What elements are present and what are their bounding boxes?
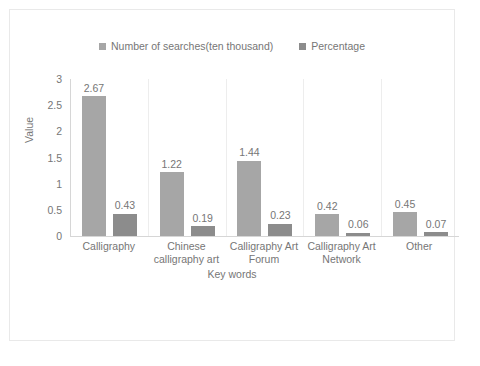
bar[interactable] <box>315 214 339 236</box>
bar-value-label: 0.42 <box>317 201 337 212</box>
bar-value-label: 0.07 <box>426 219 446 230</box>
bar-slot: 1.22 <box>160 79 184 236</box>
bar-value-label: 0.23 <box>270 210 290 221</box>
y-axis-tick: 1 <box>56 178 62 190</box>
bar-value-label: 0.45 <box>395 199 415 210</box>
bar-value-label: 0.06 <box>348 219 368 230</box>
legend-swatch-series-1-icon <box>99 43 106 50</box>
bar-group: 2.670.43 <box>71 79 149 236</box>
legend-entry-percentage[interactable]: Percentage <box>299 41 365 52</box>
bar-value-label: 0.19 <box>192 213 212 224</box>
bar[interactable] <box>424 232 448 236</box>
x-axis-title: Key words <box>10 268 454 280</box>
chart-frame: Number of searches(ten thousand) Percent… <box>9 9 455 341</box>
y-axis-tick: 2 <box>56 125 62 137</box>
bar[interactable] <box>346 233 370 236</box>
bar-value-label: 1.22 <box>161 159 181 170</box>
bar-group: 1.440.23 <box>227 79 305 236</box>
chart-legend: Number of searches(ten thousand) Percent… <box>10 41 454 52</box>
bar-slot: 2.67 <box>82 79 106 236</box>
bar-slot: 0.07 <box>424 79 448 236</box>
bar[interactable] <box>237 161 261 236</box>
bar[interactable] <box>113 214 137 237</box>
bar-slot: 1.44 <box>237 79 261 236</box>
bar-group: 0.450.07 <box>382 79 459 236</box>
bar[interactable] <box>268 224 292 236</box>
y-axis-tick: 3 <box>56 73 62 85</box>
y-axis-tick: 2.5 <box>47 99 62 111</box>
bar-slot: 0.42 <box>315 79 339 236</box>
legend-swatch-series-2-icon <box>299 43 306 50</box>
x-axis-category-label: Other <box>380 240 458 266</box>
bar-groups: 2.670.431.220.191.440.230.420.060.450.07 <box>71 79 459 236</box>
bar-value-label: 1.44 <box>239 147 259 158</box>
bar-group: 0.420.06 <box>304 79 382 236</box>
bar[interactable] <box>82 96 106 236</box>
x-axis-category-label: Calligraphy Art Network <box>303 240 381 266</box>
bar-slot: 0.45 <box>393 79 417 236</box>
bar[interactable] <box>393 212 417 236</box>
bar-slot: 0.19 <box>191 79 215 236</box>
y-axis-tick: 0.5 <box>47 204 62 216</box>
x-axis-category-label: Calligraphy <box>70 240 148 266</box>
bar[interactable] <box>160 172 184 236</box>
y-axis-tick: 1.5 <box>47 152 62 164</box>
bar-slot: 0.06 <box>346 79 370 236</box>
bar-value-label: 2.67 <box>84 83 104 94</box>
plot-area: 2.670.431.220.191.440.230.420.060.450.07 <box>70 79 459 237</box>
legend-entry-number-of-searches[interactable]: Number of searches(ten thousand) <box>99 41 273 52</box>
bar[interactable] <box>191 226 215 236</box>
bar-group: 1.220.19 <box>149 79 227 236</box>
y-axis-tick: 0 <box>56 230 62 242</box>
y-axis-tick-labels: 32.521.510.50 <box>10 79 66 236</box>
bar-slot: 0.43 <box>113 79 137 236</box>
x-axis-category-labels: CalligraphyChinese calligraphy artCallig… <box>70 240 458 266</box>
bar-slot: 0.23 <box>268 79 292 236</box>
legend-label-series-1: Number of searches(ten thousand) <box>111 41 273 52</box>
x-axis-category-label: Calligraphy Art Forum <box>225 240 303 266</box>
x-axis-category-label: Chinese calligraphy art <box>148 240 226 266</box>
legend-label-series-2: Percentage <box>311 41 365 52</box>
bar-value-label: 0.43 <box>115 200 135 211</box>
